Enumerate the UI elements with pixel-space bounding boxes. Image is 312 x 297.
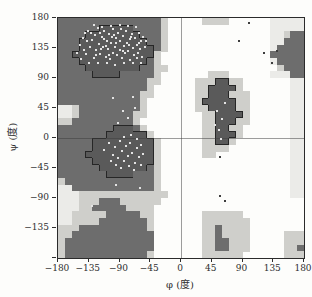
y-tick-label: −90: [17, 192, 49, 202]
y-tick: [52, 17, 56, 18]
y-tick-label: 135: [17, 42, 49, 52]
x-tick: [242, 258, 243, 262]
x-tick: [211, 258, 212, 262]
x-tick-label: 180: [286, 263, 312, 273]
x-tick: [57, 258, 58, 262]
y-tick-label: 45: [17, 102, 49, 112]
x-tick: [180, 258, 181, 262]
x-tick: [303, 258, 304, 262]
y-tick: [52, 257, 56, 258]
y-tick-label: 90: [17, 72, 49, 82]
x-tick-label: 45: [194, 263, 228, 273]
axes-layer: −180−135−90−450459013518018013590450−45−…: [0, 0, 312, 297]
x-tick-label: 0: [163, 263, 197, 273]
x-tick-label: −180: [40, 263, 74, 273]
y-tick: [52, 77, 56, 78]
y-tick: [52, 47, 56, 48]
y-tick-label: 180: [17, 12, 49, 22]
y-axis-title: ψ (度): [4, 106, 18, 168]
y-tick-label: −135: [17, 222, 49, 232]
y-tick: [52, 137, 56, 138]
x-axis-title: φ (度): [140, 276, 220, 291]
x-tick-label: −135: [71, 263, 105, 273]
x-tick-label: 90: [225, 263, 259, 273]
x-tick: [88, 258, 89, 262]
y-tick: [52, 167, 56, 168]
ramachandran-figure: −180−135−90−450459013518018013590450−45−…: [0, 0, 312, 297]
y-tick: [52, 107, 56, 108]
x-tick-label: 135: [255, 263, 289, 273]
y-tick-label: 0: [17, 132, 49, 142]
y-tick: [52, 227, 56, 228]
x-tick: [119, 258, 120, 262]
x-tick: [149, 258, 150, 262]
y-tick-label: −45: [17, 162, 49, 172]
x-tick-label: −90: [102, 263, 136, 273]
x-tick-label: −45: [132, 263, 166, 273]
x-tick: [272, 258, 273, 262]
y-tick: [52, 197, 56, 198]
